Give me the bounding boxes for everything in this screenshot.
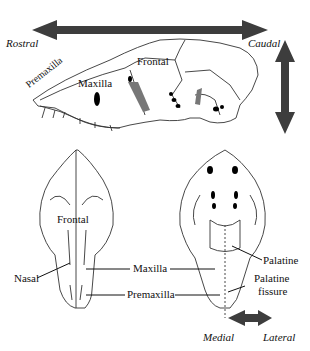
palatine-label: Palatine [263,255,298,266]
medial-lateral-arrow [228,310,272,326]
maxilla-foramen [94,92,100,106]
palatine-fissure-label-1: Palatine [254,273,289,284]
frontal-dorsal-label: Frontal [57,214,89,225]
palatine-fissure-label-2: fissure [258,286,287,297]
frontal-lateral-label: Frontal [137,56,169,67]
rostral-label: Rostral [6,38,38,49]
medial-label: Medial [203,332,234,343]
caudal-label: Caudal [248,38,280,49]
lateral-skull [33,39,258,131]
premaxilla-shared-label: Premaxilla [127,289,175,300]
ventral-skull [180,150,266,318]
lateral-label: Lateral [263,332,295,343]
nasal-label: Nasal [14,273,39,284]
rostral-caudal-arrow [32,20,268,40]
dorsal-skull [40,150,114,308]
maxilla-shared-label: Maxilla [133,263,167,274]
maxilla-lateral-label: Maxilla [78,78,112,89]
dorsal-ventral-arrow [275,40,295,134]
